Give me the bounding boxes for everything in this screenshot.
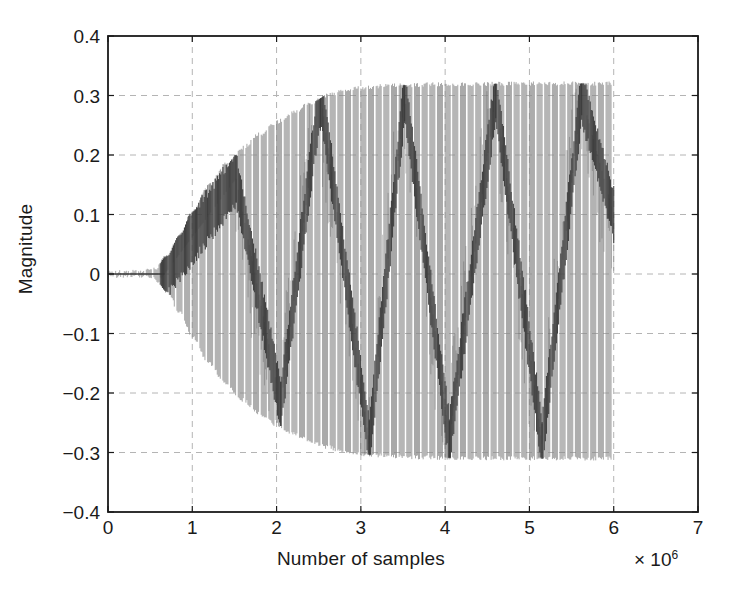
signal-trace [108,81,614,460]
plot-canvas [0,0,730,594]
chart-figure: Magnitude 0.40.30.20.10−0.1−0.2−0.3−0.4 … [0,0,730,594]
